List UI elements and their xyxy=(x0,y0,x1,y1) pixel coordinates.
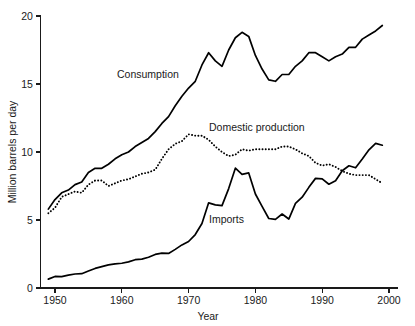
y-tick-label-10: 10 xyxy=(21,146,33,158)
x-axis-ticks xyxy=(55,288,389,293)
x-axis-title: Year xyxy=(197,310,219,322)
y-tick-label-0: 0 xyxy=(27,282,33,294)
y-tick-label-5: 5 xyxy=(27,214,33,226)
y-axis-title: Million barrels per day xyxy=(6,100,18,203)
chart-canvas: 05101520195019601970198019902000 Year Mi… xyxy=(0,0,415,326)
x-tick-label-1980: 1980 xyxy=(244,294,268,306)
imports-label: Imports xyxy=(209,213,244,225)
series-group xyxy=(48,26,382,280)
consumption-label: Consumption xyxy=(117,68,179,80)
x-tick-label-1960: 1960 xyxy=(110,294,134,306)
x-tick-label-1950: 1950 xyxy=(43,294,67,306)
tick-label-group: 05101520195019601970198019902000 xyxy=(21,10,401,306)
domestic-production-line xyxy=(48,134,382,213)
x-tick-label-2000: 2000 xyxy=(377,294,401,306)
y-tick-label-20: 20 xyxy=(21,10,33,22)
x-tick-label-1990: 1990 xyxy=(311,294,335,306)
x-tick-label-1970: 1970 xyxy=(177,294,201,306)
axes-group xyxy=(36,15,398,293)
imports-line xyxy=(48,143,382,279)
y-tick-label-15: 15 xyxy=(21,78,33,90)
domestic-production-label: Domestic production xyxy=(209,121,305,133)
oil-supply-chart: 05101520195019601970198019902000 Year Mi… xyxy=(0,0,415,326)
y-axis-ticks xyxy=(36,16,41,288)
